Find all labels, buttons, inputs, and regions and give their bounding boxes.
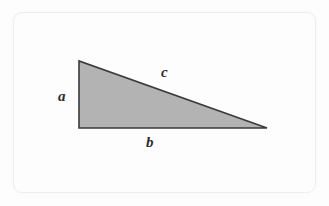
figure-canvas: a b c [0,0,329,206]
side-label-c: c [161,65,168,80]
side-label-a: a [58,89,66,104]
side-label-b: b [146,135,154,150]
right-triangle-shape [79,61,267,128]
triangle-graphic [0,0,329,206]
